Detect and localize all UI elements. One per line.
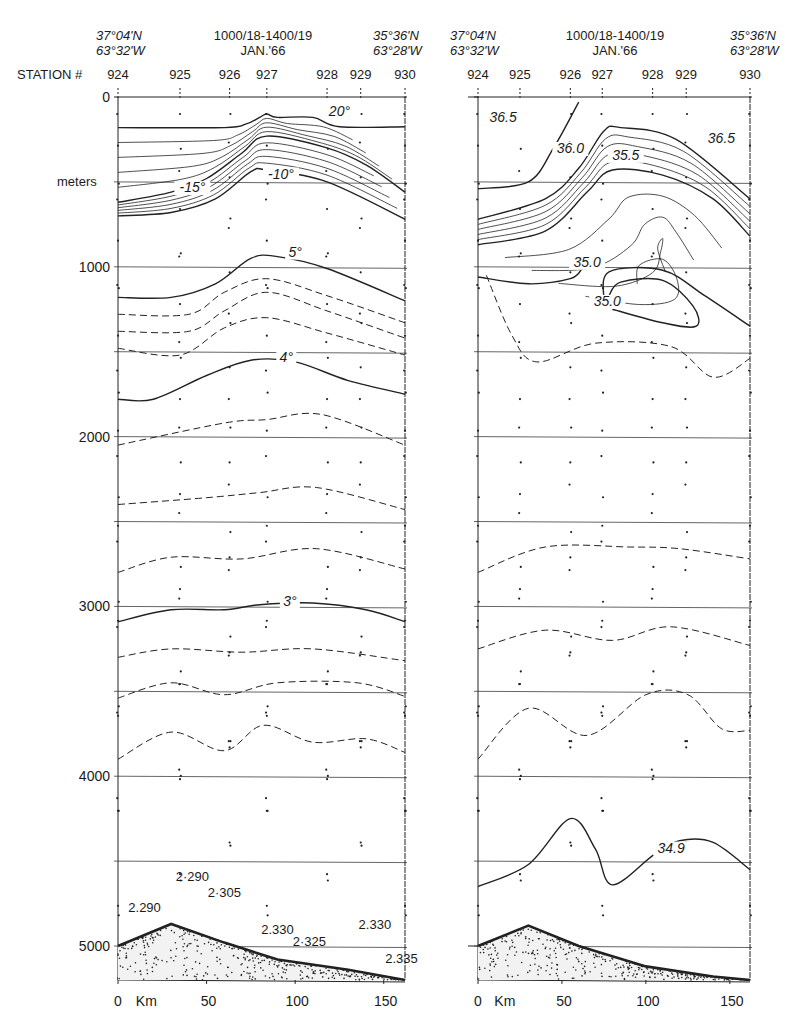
- seafloor-stipple: [634, 970, 636, 972]
- sample-point: [178, 512, 180, 514]
- seafloor-stipple: [354, 972, 356, 974]
- seafloor-stipple: [256, 955, 258, 957]
- seafloor-stipple: [357, 976, 359, 978]
- sample-point: [519, 588, 521, 590]
- seafloor-stipple: [629, 965, 631, 967]
- seafloor-stipple: [593, 963, 595, 965]
- seafloor-stipple: [266, 956, 268, 958]
- seafloor-stipple: [507, 965, 509, 967]
- seafloor-stipple: [377, 977, 379, 979]
- seafloor-stipple: [238, 947, 240, 949]
- seafloor-stipple: [660, 970, 662, 972]
- seafloor-stipple: [358, 972, 360, 974]
- seafloor-stipple: [483, 944, 485, 946]
- seafloor-stipple: [300, 970, 302, 972]
- bottom-temperature-annotation: 2.290: [128, 900, 161, 915]
- seafloor-stipple: [515, 935, 517, 937]
- sample-point: [179, 398, 181, 400]
- y-tick-3000: 3000: [79, 598, 110, 614]
- seafloor-stipple: [276, 965, 278, 967]
- seafloor-stipple: [595, 955, 597, 957]
- seafloor-stipple: [274, 961, 276, 963]
- seafloor-stipple: [262, 969, 264, 971]
- seafloor-stipple: [489, 947, 491, 949]
- sample-point: [569, 556, 571, 558]
- seafloor-stipple: [564, 942, 566, 944]
- seafloor-stipple: [527, 972, 529, 974]
- sample-point: [178, 597, 180, 599]
- seafloor-stipple: [556, 973, 558, 975]
- seafloor-stipple: [278, 973, 280, 975]
- station-number-928: 928: [642, 67, 664, 82]
- sample-point: [359, 740, 361, 742]
- seafloor-stipple: [501, 941, 503, 943]
- sample-point: [568, 569, 570, 571]
- sample-point: [228, 655, 230, 657]
- seafloor-stipple: [512, 976, 514, 978]
- seafloor-stipple: [616, 963, 618, 965]
- sample-point: [267, 914, 269, 916]
- sample-point: [265, 369, 267, 371]
- sample-point: [360, 271, 362, 273]
- seafloor-stipple: [123, 947, 125, 949]
- sample-point: [519, 873, 521, 875]
- seafloor-stipple: [151, 933, 153, 935]
- sample-point: [265, 455, 267, 457]
- seafloor-stipple: [260, 955, 262, 957]
- seafloor-stipple: [376, 974, 378, 976]
- seafloor-stipple: [143, 940, 145, 942]
- dashed-contour: [118, 279, 405, 323]
- seafloor-stipple: [144, 951, 146, 953]
- seafloor-stipple: [736, 978, 738, 980]
- seafloor-stipple: [588, 951, 590, 953]
- seafloor-stipple: [749, 979, 751, 981]
- seafloor-stipple: [276, 959, 278, 961]
- seafloor-stipple: [254, 967, 256, 969]
- seafloor-stipple: [145, 960, 147, 962]
- seafloor-stipple: [721, 977, 723, 979]
- seafloor-stipple: [328, 967, 330, 969]
- seafloor-stipple: [336, 969, 338, 971]
- seafloor-stipple: [253, 960, 255, 962]
- seafloor-stipple: [504, 940, 506, 942]
- seafloor-stipple: [189, 931, 191, 933]
- seafloor-stipple: [322, 976, 324, 978]
- sample-point: [570, 217, 572, 219]
- seafloor-stipple: [170, 950, 172, 952]
- seafloor-stipple: [337, 971, 339, 973]
- seafloor-stipple: [615, 968, 617, 970]
- seafloor-stipple: [153, 930, 155, 932]
- seafloor-stipple: [311, 964, 313, 966]
- sample-point: [601, 905, 603, 907]
- seafloor-stipple: [573, 966, 575, 968]
- seafloor-stipple: [140, 953, 142, 955]
- sample-point: [325, 597, 327, 599]
- sample-point: [178, 341, 180, 343]
- sample-point: [179, 588, 181, 590]
- sample-point: [520, 879, 522, 881]
- seafloor-stipple: [338, 973, 340, 975]
- seafloor-stipple: [553, 950, 555, 952]
- seafloor-stipple: [244, 959, 246, 961]
- seafloor-stipple: [264, 960, 266, 962]
- contour-label: 3°: [283, 593, 297, 609]
- sample-point: [325, 255, 327, 257]
- sample-point: [359, 312, 361, 314]
- seafloor-stipple: [647, 966, 649, 968]
- seafloor-stipple: [673, 976, 675, 978]
- seafloor-stipple: [179, 928, 181, 930]
- sample-point: [685, 366, 687, 368]
- seafloor-stipple: [685, 978, 687, 980]
- seafloor-stipple: [484, 967, 486, 969]
- seafloor-stipple: [593, 954, 595, 956]
- seafloor-stipple: [204, 943, 206, 945]
- seafloor-stipple: [274, 964, 276, 966]
- seafloor-stipple: [252, 976, 254, 978]
- depth-gridline: [474, 182, 752, 184]
- sample-point: [229, 746, 231, 748]
- seafloor-stipple: [121, 944, 123, 946]
- seafloor-stipple: [479, 969, 481, 971]
- seafloor-stipple: [483, 952, 485, 954]
- seafloor-stipple: [743, 979, 745, 981]
- sample-point: [520, 461, 522, 463]
